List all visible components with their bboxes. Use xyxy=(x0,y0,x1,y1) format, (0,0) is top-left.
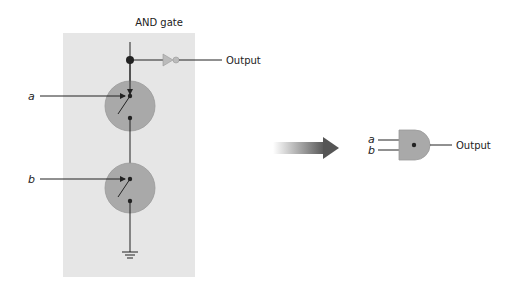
gate-output-label: Output xyxy=(456,140,491,151)
and-gate-diagram: AND gate Output a b a b Outp xyxy=(0,0,511,294)
inverter-bubble-icon xyxy=(173,57,179,63)
output-label: Output xyxy=(226,55,261,66)
title: AND gate xyxy=(135,17,183,28)
circuit-panel xyxy=(63,33,195,277)
input-a-label: a xyxy=(28,90,35,103)
input-b-label: b xyxy=(28,173,35,186)
gate-input-b-label: b xyxy=(368,144,375,157)
and-gate-symbol xyxy=(378,130,452,160)
transform-arrow-icon xyxy=(273,137,339,159)
